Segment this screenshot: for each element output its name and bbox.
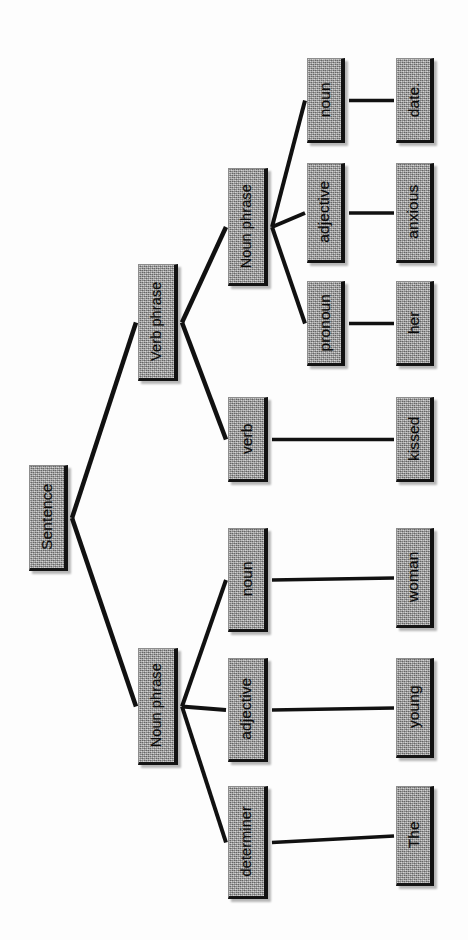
tree-node-word_young[interactable]: young <box>396 658 434 758</box>
syntax-tree-diagram: SentenceVerb phraseNoun phraseNoun phras… <box>0 0 468 940</box>
tree-edge-np_object-to-adj_object <box>272 213 305 227</box>
tree-node-label: adjective <box>317 181 333 243</box>
tree-node-label: Sentence <box>39 484 55 550</box>
tree-node-label: her <box>406 311 422 334</box>
tree-node-adj_subject[interactable]: adjective <box>228 658 268 762</box>
tree-node-adj_object[interactable]: adjective <box>307 163 345 263</box>
tree-edge-determiner-to-word_the <box>272 836 394 843</box>
tree-edge-np_subject-to-adj_subject <box>182 707 226 711</box>
tree-node-label: kissed <box>406 416 422 461</box>
tree-node-label: young <box>406 686 422 729</box>
tree-node-label: Noun phrase <box>239 184 254 268</box>
tree-node-noun_object[interactable]: noun <box>307 58 345 143</box>
tree-node-label: noun <box>239 562 255 597</box>
tree-node-sentence[interactable]: Sentence <box>29 465 68 571</box>
tree-node-label: adjective <box>239 678 255 740</box>
tree-edge-sentence-to-np_subject <box>72 518 136 707</box>
tree-node-word_woman[interactable]: woman <box>396 528 434 628</box>
tree-node-word_date[interactable]: date. <box>396 58 434 143</box>
tree-edge-sentence-to-vp <box>72 323 136 519</box>
tree-node-np_subject[interactable]: Noun phrase <box>138 648 178 765</box>
tree-node-label: pronoun <box>317 294 333 352</box>
tree-node-label: determiner <box>239 806 254 876</box>
tree-node-label: The <box>406 821 422 848</box>
tree-node-label: Noun phrase <box>149 663 164 747</box>
tree-edge-np_subject-to-noun_subject <box>182 580 226 707</box>
tree-node-label: date. <box>406 82 422 117</box>
tree-node-vp[interactable]: Verb phrase <box>138 264 178 381</box>
tree-node-label: Verb phrase <box>149 282 164 361</box>
tree-node-noun_subject[interactable]: noun <box>228 528 268 632</box>
tree-edge-adj_subject-to-word_young <box>272 708 394 710</box>
tree-edge-np_subject-to-determiner <box>182 707 226 843</box>
tree-node-label: woman <box>406 552 422 602</box>
tree-node-pronoun[interactable]: pronoun <box>307 281 345 366</box>
tree-node-determiner[interactable]: determiner <box>228 786 268 899</box>
tree-node-label: verb <box>239 423 255 454</box>
tree-edge-np_object-to-noun_object <box>272 101 305 228</box>
tree-edge-noun_subject-to-word_woman <box>272 578 394 580</box>
tree-node-verb[interactable]: verb <box>228 397 268 482</box>
tree-edge-vp-to-verb <box>182 323 226 440</box>
tree-node-word_the[interactable]: The <box>396 786 434 886</box>
tree-node-np_object[interactable]: Noun phrase <box>228 168 268 286</box>
tree-node-label: anxious <box>406 185 422 239</box>
tree-node-word_kissed[interactable]: kissed <box>396 397 434 482</box>
tree-edge-vp-to-np_object <box>182 227 226 323</box>
tree-node-word_her[interactable]: her <box>396 281 434 366</box>
tree-node-word_anxious[interactable]: anxious <box>396 163 434 263</box>
tree-edge-np_object-to-pronoun <box>272 227 305 324</box>
tree-node-label: noun <box>317 82 333 117</box>
